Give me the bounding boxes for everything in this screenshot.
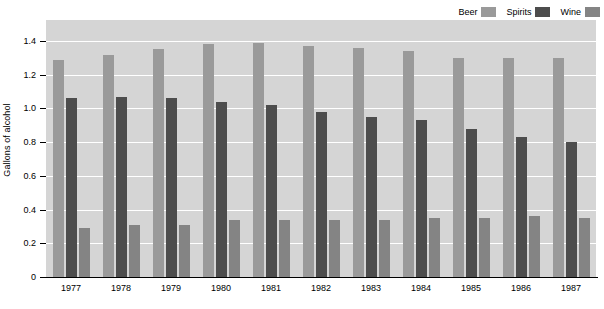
y-axis-title: Gallons of alcohol <box>0 0 14 280</box>
bar-group <box>346 20 396 277</box>
x-tick-label-1986: 1986 <box>496 283 546 293</box>
bar-wine-1984 <box>429 218 440 277</box>
bar-beer-1979 <box>153 49 164 277</box>
bar-group <box>96 20 146 277</box>
x-tick-label-1982: 1982 <box>296 283 346 293</box>
legend-entry-spirits[interactable]: Spirits <box>506 7 550 17</box>
bar-spirits-1983 <box>366 117 377 277</box>
x-tick-label-1983: 1983 <box>346 283 396 293</box>
bar-wine-1978 <box>129 225 140 277</box>
bar-group <box>46 20 96 277</box>
bar-spirits-1981 <box>266 105 277 277</box>
y-axis-title-label: Gallons of alcohol <box>2 103 12 176</box>
bar-spirits-1982 <box>316 112 327 277</box>
bar-beer-1986 <box>503 58 514 277</box>
bar-group <box>296 20 346 277</box>
bar-group <box>446 20 496 277</box>
bar-group <box>246 20 296 277</box>
x-tick-label-1981: 1981 <box>246 283 296 293</box>
bar-spirits-1980 <box>216 102 227 277</box>
bar-beer-1983 <box>353 48 364 277</box>
bar-wine-1987 <box>579 218 590 277</box>
legend-label: Beer <box>458 7 477 17</box>
bar-wine-1983 <box>379 220 390 277</box>
bar-beer-1984 <box>403 51 414 277</box>
bar-wine-1979 <box>179 225 190 277</box>
bar-group <box>396 20 446 277</box>
x-tick-label-1979: 1979 <box>146 283 196 293</box>
bar-beer-1982 <box>303 46 314 277</box>
bar-spirits-1978 <box>116 97 127 277</box>
bar-wine-1977 <box>79 228 90 277</box>
legend-swatch <box>535 7 550 17</box>
bar-group <box>146 20 196 277</box>
bar-beer-1978 <box>103 55 114 278</box>
bar-spirits-1987 <box>566 142 577 277</box>
bar-wine-1980 <box>229 220 240 277</box>
x-tick-label-1977: 1977 <box>46 283 96 293</box>
x-tick-label-1987: 1987 <box>546 283 596 293</box>
x-tick-label-1985: 1985 <box>446 283 496 293</box>
legend-entry-beer[interactable]: Beer <box>458 7 496 17</box>
bar-spirits-1979 <box>166 98 177 277</box>
bar-wine-1985 <box>479 218 490 277</box>
alcohol-consumption-bar-chart: BeerSpiritsWine Gallons of alcohol 00.20… <box>0 0 604 309</box>
bar-wine-1982 <box>329 220 340 277</box>
legend-label: Wine <box>560 7 581 17</box>
x-tick-label-1978: 1978 <box>96 283 146 293</box>
bar-group <box>196 20 246 277</box>
x-tick-label-1980: 1980 <box>196 283 246 293</box>
bars-layer <box>46 20 596 277</box>
bar-beer-1981 <box>253 43 264 277</box>
chart-legend: BeerSpiritsWine <box>430 4 600 20</box>
bar-beer-1985 <box>453 58 464 277</box>
bar-group <box>496 20 546 277</box>
bar-wine-1986 <box>529 216 540 277</box>
bar-spirits-1986 <box>516 137 527 277</box>
plot-area <box>46 20 596 277</box>
legend-swatch <box>481 7 496 17</box>
bar-beer-1977 <box>53 60 64 277</box>
bar-beer-1987 <box>553 58 564 277</box>
bar-wine-1981 <box>279 220 290 277</box>
x-tick-label-1984: 1984 <box>396 283 446 293</box>
bar-group <box>546 20 596 277</box>
x-axis-line <box>40 277 598 278</box>
bar-spirits-1984 <box>416 120 427 277</box>
bar-spirits-1977 <box>66 98 77 277</box>
bar-beer-1980 <box>203 44 214 277</box>
bar-spirits-1985 <box>466 129 477 277</box>
legend-swatch <box>585 7 600 17</box>
legend-label: Spirits <box>506 7 531 17</box>
legend-entry-wine[interactable]: Wine <box>560 7 600 17</box>
